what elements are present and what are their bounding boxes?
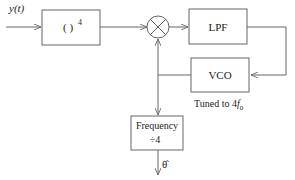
- vco-label: VCO: [208, 69, 231, 81]
- power-block: ( ) 4: [42, 10, 100, 45]
- lpf-block: LPF: [189, 9, 247, 44]
- vco-block: VCO: [191, 58, 249, 92]
- multiplier-icon: [147, 16, 169, 38]
- input-signal: y(t): [6, 2, 41, 27]
- lpf-label: LPF: [209, 21, 228, 33]
- output-label: θ̂: [162, 158, 169, 170]
- power-block-exponent: 4: [78, 18, 82, 27]
- divider-label-line2: ÷4: [150, 134, 161, 145]
- power-block-label: ( ): [63, 21, 73, 34]
- divider-label-line1: Frequency: [136, 120, 178, 131]
- vco-note: Tuned to 4f0: [194, 98, 244, 112]
- input-label: y(t): [8, 2, 25, 15]
- frequency-divider-block: Frequency ÷4: [131, 116, 183, 150]
- lpf-to-vco-arrow: [247, 27, 286, 75]
- pll-block-diagram: y(t) ( ) 4 LPF VCO Tuned to 4f0 Frequenc…: [0, 0, 295, 180]
